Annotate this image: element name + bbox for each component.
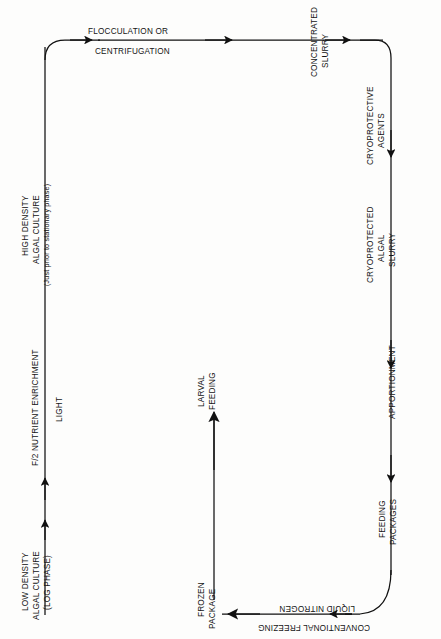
label-cryoprotected: CRYOPROTECTED — [366, 206, 376, 283]
label-slurry-2: SLURRY — [388, 233, 398, 267]
label-concentrated: CONCENTRATED — [310, 7, 320, 77]
label-light: LIGHT — [55, 397, 65, 422]
label-agents: AGENTS — [377, 113, 387, 148]
label-log-phase: (LOG PHASE) — [43, 555, 53, 610]
label-high-density: HIGH DENSITY — [21, 195, 31, 256]
corner-top-right — [360, 40, 391, 80]
flowchart-page: FLOCCULATION OR CENTRIFUGATION CONCENTRA… — [0, 0, 441, 639]
label-slurry: SLURRY — [321, 34, 331, 68]
label-just-prior-stationary: (Just prior to stationary phase) — [43, 184, 51, 286]
label-flocculation-or: FLOCCULATION OR — [88, 27, 168, 37]
label-low-density: LOW DENSITY — [21, 552, 31, 611]
label-algal-culture: ALGAL CULTURE — [32, 195, 42, 264]
label-algal-culture-2: ALGAL CULTURE — [32, 551, 42, 620]
label-conventional-freezing: CONVENTIONAL FREEZING — [258, 622, 370, 632]
label-cryoprotective: CRYOPROTECTIVE — [366, 86, 376, 165]
label-apportionment: APPORTIONMENT — [388, 345, 398, 419]
label-feeding: FEEDING — [378, 500, 388, 538]
label-packages: PACKAGES — [389, 499, 399, 545]
label-frozen: FROZEN — [197, 582, 207, 617]
label-liquid-nitrogen: LIQUID NITROGEN — [279, 603, 355, 613]
label-package: PACKAGE — [208, 589, 218, 629]
label-centrifugation: CENTRIFUGATION — [95, 47, 170, 57]
label-f2-nutrient-enrichment: F/2 NUTRIENT ENRICHMENT — [31, 349, 41, 466]
label-larval: LARVAL — [197, 375, 207, 407]
label-feeding-2: FEEDING — [208, 372, 218, 410]
corner-top-left — [45, 40, 100, 60]
label-algal: ALGAL — [377, 235, 387, 262]
